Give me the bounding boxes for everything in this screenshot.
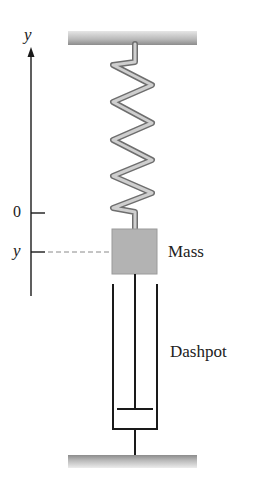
dashpot (113, 274, 157, 455)
axis-arrow-icon (28, 47, 35, 57)
mass-label: Mass (168, 243, 204, 260)
y-axis (28, 47, 46, 296)
dashpot-label: Dashpot (170, 343, 227, 360)
tick-label-y: y (13, 242, 21, 259)
mass-block (112, 229, 157, 274)
floor-support (68, 455, 197, 468)
tick-label-zero: 0 (13, 204, 21, 220)
mass-spring-dashpot-diagram (0, 0, 258, 484)
spring (113, 44, 152, 229)
axis-label-y: y (24, 26, 32, 43)
